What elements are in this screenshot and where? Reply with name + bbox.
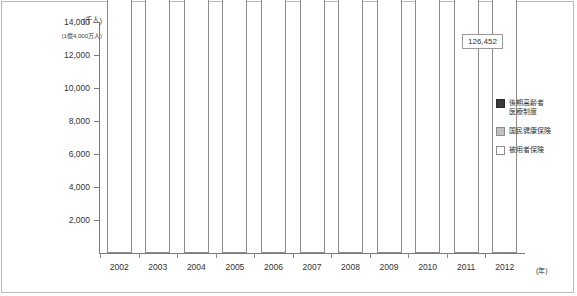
y-axis-label: 10,000 [30,83,90,93]
x-axis-tick [408,253,409,258]
bar-2005: 75,54951,677 [222,22,247,253]
bar-2010: 73,79738,76914,041 [415,22,440,253]
x-axis-unit-label: (年) [536,265,548,275]
bar-2009: 74,05539,09813,604 [377,22,402,253]
bar-segment-employee-2006: 76,033 [261,0,286,253]
y-axis-tick [94,22,99,23]
y-axis-tick [94,154,99,155]
x-axis-line [99,253,525,254]
legend-item-national: 国民健康保険 [496,126,574,136]
x-axis-tick [331,253,332,258]
legend-label-national: 国民健康保険 [509,126,551,135]
bar-segment-employee-2009: 74,055 [377,0,402,253]
bar-segment-employee-2003: 75,621 [145,0,170,253]
legend-item-elderly: 後期高齢者医療制度 [496,98,574,117]
legend-label-employee: 被用者保険 [509,145,544,154]
plot-area: 76,44150,59775,62150,93675,51951,57875,5… [100,22,524,253]
bar-2006: 76,03351,268 [261,22,286,253]
bar-segment-employee-2008: 74,226 [338,0,363,253]
legend-label-elderly: 後期高齢者医療制度 [509,98,544,117]
y-axis-tick [94,55,99,56]
legend-item-employee: 被用者保険 [496,145,574,155]
x-axis-tick [447,253,448,258]
bar-segment-employee-2007: 76,703 [300,0,325,253]
legend-swatch-national-icon [496,127,505,136]
x-axis-tick [216,253,217,258]
x-axis-tick [485,253,486,258]
bar-2011: 73,63238,31314,738 [454,22,479,253]
x-axis-tick [177,253,178,258]
bar-segment-employee-2002: 76,441 [107,0,132,253]
y-axis-tick [94,121,99,122]
chart-legend: 後期高齢者医療制度 国民健康保険 被用者保険 [496,98,574,164]
chart-screenshot: (千人) (1億4,000万人) (年) 76,44150,59775,6215… [0,0,577,296]
bar-segment-employee-2004: 75,519 [184,0,209,253]
x-axis-tick [139,253,140,258]
total-callout-2012: 126,452 [462,34,503,49]
y-axis-label: 4,000 [30,182,90,192]
legend-swatch-elderly-icon [496,99,505,108]
x-axis-tick [370,253,371,258]
y-axis-label: 12,000 [30,50,90,60]
legend-swatch-employee-icon [496,146,505,155]
bar-2002: 76,44150,597 [107,22,132,253]
bar-2008: 74,22639,49213,408 [338,22,363,253]
y-axis-tick [94,220,99,221]
x-axis-tick [293,253,294,258]
x-axis-tick [100,253,101,258]
y-axis-label: 6,000 [30,149,90,159]
bar-2004: 75,51951,578 [184,22,209,253]
x-axis-label-2012: 2012 [482,262,528,272]
x-axis-tick [254,253,255,258]
y-axis-tick [94,88,99,89]
y-axis-label: 2,000 [30,215,90,225]
bar-segment-employee-2005: 75,549 [222,0,247,253]
y-axis-max-note: (1億4,000万人) [16,31,102,40]
y-axis-label: 8,000 [30,116,90,126]
bar-2007: 76,70350,704 [300,22,325,253]
y-axis-tick [94,187,99,188]
bar-2003: 75,62150,936 [145,22,170,253]
bar-segment-employee-2010: 73,797 [415,0,440,253]
y-axis-label: 14,000 [30,17,90,27]
